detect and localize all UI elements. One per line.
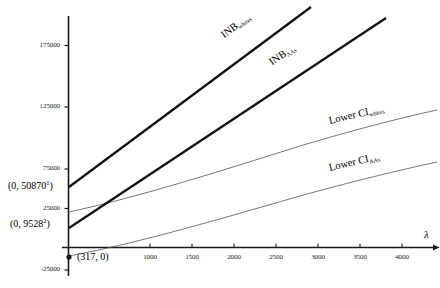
annotation-y-intercept-aas-text: (0, 9528: [10, 218, 43, 229]
x-tick-label-1000: 1000: [137, 253, 163, 261]
annotation-marker-dot: [66, 254, 71, 259]
x-tick-label-2000: 2000: [221, 253, 247, 261]
series-line-inb-whites: [69, 7, 311, 187]
annotation-x-intercept-aas: (317, 0): [77, 251, 109, 262]
y-tick-label-neg25000: -25000: [8, 265, 60, 273]
chart-container: 175000 125000 75000 25000 -25000 1000 15…: [0, 0, 440, 288]
annotation-y-intercept-whites: (0, 508701): [8, 179, 53, 191]
series-line-lower-ci-whites: [69, 110, 437, 212]
x-tick-label-4000: 4000: [389, 253, 415, 261]
y-tick-label-175000: 175000: [8, 41, 60, 49]
y-tick-label-75000: 75000: [8, 164, 60, 172]
x-axis-arrow-icon: [433, 245, 440, 251]
annotation-y-intercept-whites-text: (0, 50870: [8, 180, 46, 191]
y-tick-label-25000: 25000: [8, 204, 60, 212]
y-tick-label-125000: 125000: [8, 102, 60, 110]
series-line-lower-ci-aas: [69, 162, 437, 256]
annotation-y-intercept-whites-tail: ): [50, 180, 53, 191]
x-tick-label-3500: 3500: [347, 253, 373, 261]
chart-plot-area: [0, 0, 440, 288]
annotation-y-intercept-aas: (0, 95282): [10, 217, 50, 229]
x-tick-label-2500: 2500: [263, 253, 289, 261]
annotation-y-intercept-aas-tail: ): [47, 218, 50, 229]
x-axis-label: λ: [424, 228, 429, 240]
x-tick-label-1500: 1500: [179, 253, 205, 261]
x-tick-label-3000: 3000: [305, 253, 331, 261]
